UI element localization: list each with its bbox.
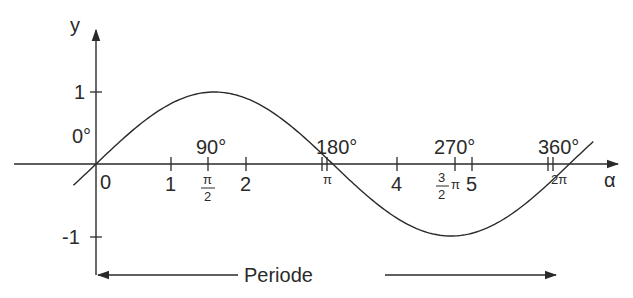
three-half-pi-symbol: π: [451, 177, 460, 192]
degree-label-180: 180°: [316, 136, 357, 158]
pi-half-label: π 2: [201, 172, 215, 204]
pi-half-denominator: 2: [204, 189, 211, 204]
degree-label-0: 0°: [72, 125, 91, 147]
three-half-pi-label: 3 2 π: [436, 170, 460, 202]
period-label: Periode: [244, 264, 313, 286]
y-tick-label-minus-1: -1: [62, 226, 80, 248]
three-half-denominator: 2: [438, 187, 445, 202]
degree-label-360: 360°: [538, 136, 579, 158]
three-half-numerator: 3: [438, 170, 445, 185]
x-tick-label-4: 4: [391, 173, 402, 195]
pi-half-numerator: π: [203, 172, 212, 187]
x-axis-label: α: [604, 169, 616, 191]
y-tick-label-1: 1: [74, 81, 85, 103]
y-axis-label: y: [70, 14, 80, 36]
x-tick-label-1: 1: [165, 173, 176, 195]
degree-label-90: 90°: [196, 136, 226, 158]
pi-label: π: [323, 172, 332, 187]
x-tick-label-5: 5: [466, 173, 477, 195]
x-tick-label-0: 0: [100, 171, 111, 193]
sine-diagram: y α 1 -1 0° 90° 180° 270° 360° 0 1 2 4 5…: [0, 0, 633, 298]
degree-label-270: 270°: [434, 136, 475, 158]
two-pi-label: 2π: [551, 172, 567, 187]
x-tick-label-2: 2: [240, 173, 251, 195]
